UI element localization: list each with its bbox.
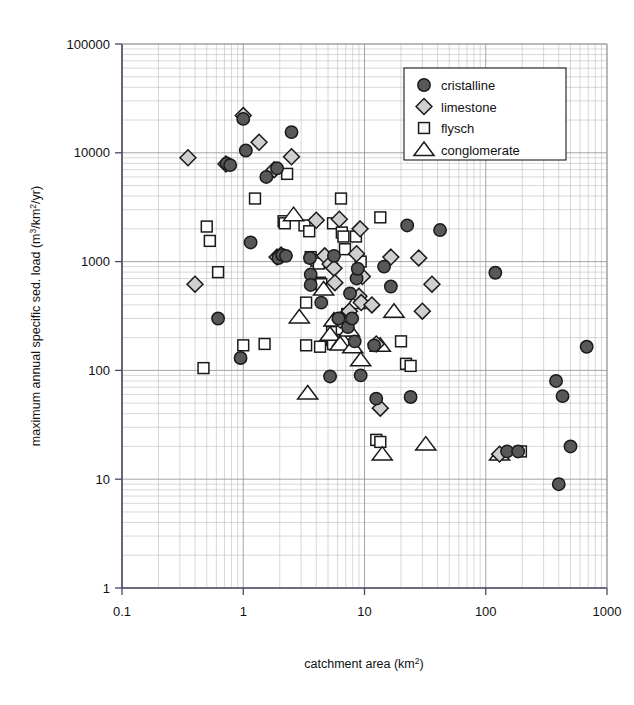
x-tick-label: 1000 bbox=[593, 604, 622, 619]
data-point-cristalline bbox=[404, 391, 416, 403]
legend-label-conglomerate: conglomerate bbox=[441, 143, 520, 158]
data-point-cristalline bbox=[240, 144, 252, 156]
data-point-cristalline bbox=[237, 113, 249, 125]
legend-label-limestone: limestone bbox=[441, 100, 497, 115]
data-point-flysch bbox=[201, 221, 212, 232]
y-tick-label: 1 bbox=[103, 581, 110, 596]
data-point-flysch bbox=[315, 341, 326, 352]
data-point-cristalline bbox=[550, 375, 562, 387]
chart-canvas: 0.11101001000110100100010000100000 crist… bbox=[0, 0, 634, 705]
chart-legend: cristallinelimestoneflyschconglomerate bbox=[404, 68, 566, 160]
data-point-cristalline bbox=[212, 312, 224, 324]
data-point-cristalline bbox=[324, 370, 336, 382]
data-point-cristalline bbox=[352, 263, 364, 275]
data-point-flysch bbox=[338, 231, 349, 242]
x-tick-label: 10 bbox=[357, 604, 371, 619]
data-point-flysch bbox=[396, 336, 407, 347]
legend-label-cristalline: cristalline bbox=[441, 78, 495, 93]
data-point-flysch bbox=[336, 193, 347, 204]
data-point-flysch bbox=[198, 363, 209, 374]
data-point-cristalline bbox=[285, 126, 297, 138]
data-point-cristalline bbox=[346, 312, 358, 324]
data-point-flysch bbox=[375, 212, 386, 223]
data-point-flysch bbox=[250, 193, 261, 204]
legend-marker-flysch bbox=[419, 123, 430, 134]
data-point-cristalline bbox=[260, 171, 272, 183]
data-point-cristalline bbox=[315, 296, 327, 308]
data-point-cristalline bbox=[234, 352, 246, 364]
data-point-cristalline bbox=[370, 392, 382, 404]
data-point-cristalline bbox=[224, 159, 236, 171]
data-point-cristalline bbox=[489, 267, 501, 279]
x-tick-label: 1 bbox=[240, 604, 247, 619]
y-tick-label: 10 bbox=[96, 472, 110, 487]
data-point-flysch bbox=[204, 235, 215, 246]
data-point-cristalline bbox=[378, 260, 390, 272]
y-axis-title: maximum annual specific sed. load (m3/km… bbox=[28, 186, 43, 446]
y-tick-label: 10000 bbox=[74, 145, 110, 160]
data-point-cristalline bbox=[328, 250, 340, 262]
data-point-flysch bbox=[375, 437, 386, 448]
y-tick-label: 100 bbox=[88, 363, 110, 378]
data-point-cristalline bbox=[434, 224, 446, 236]
data-point-cristalline bbox=[305, 279, 317, 291]
data-point-cristalline bbox=[354, 369, 366, 381]
data-point-cristalline bbox=[580, 341, 592, 353]
legend-marker-cristalline bbox=[418, 79, 430, 91]
x-tick-label: 0.1 bbox=[113, 604, 131, 619]
data-point-cristalline bbox=[556, 390, 568, 402]
data-point-cristalline bbox=[271, 162, 283, 174]
scatter-plot-figure: 0.11101001000110100100010000100000 crist… bbox=[0, 0, 634, 705]
x-axis-title: catchment area (km2) bbox=[304, 656, 423, 671]
data-point-cristalline bbox=[401, 219, 413, 231]
data-point-cristalline bbox=[244, 236, 256, 248]
x-tick-label: 100 bbox=[475, 604, 497, 619]
data-point-cristalline bbox=[368, 339, 380, 351]
data-point-flysch bbox=[259, 339, 270, 350]
y-tick-label: 1000 bbox=[81, 254, 110, 269]
data-point-cristalline bbox=[304, 252, 316, 264]
data-point-cristalline bbox=[344, 287, 356, 299]
data-point-cristalline bbox=[280, 250, 292, 262]
data-point-flysch bbox=[301, 340, 312, 351]
data-point-cristalline bbox=[348, 335, 360, 347]
data-point-flysch bbox=[213, 267, 224, 278]
data-point-flysch bbox=[301, 297, 312, 308]
data-point-flysch bbox=[304, 226, 315, 237]
data-point-flysch bbox=[238, 340, 249, 351]
legend-label-flysch: flysch bbox=[441, 121, 474, 136]
y-tick-label: 100000 bbox=[67, 37, 110, 52]
data-point-cristalline bbox=[385, 280, 397, 292]
data-point-cristalline bbox=[512, 445, 524, 457]
data-point-cristalline bbox=[564, 440, 576, 452]
data-point-flysch bbox=[405, 360, 416, 371]
data-point-cristalline bbox=[553, 478, 565, 490]
